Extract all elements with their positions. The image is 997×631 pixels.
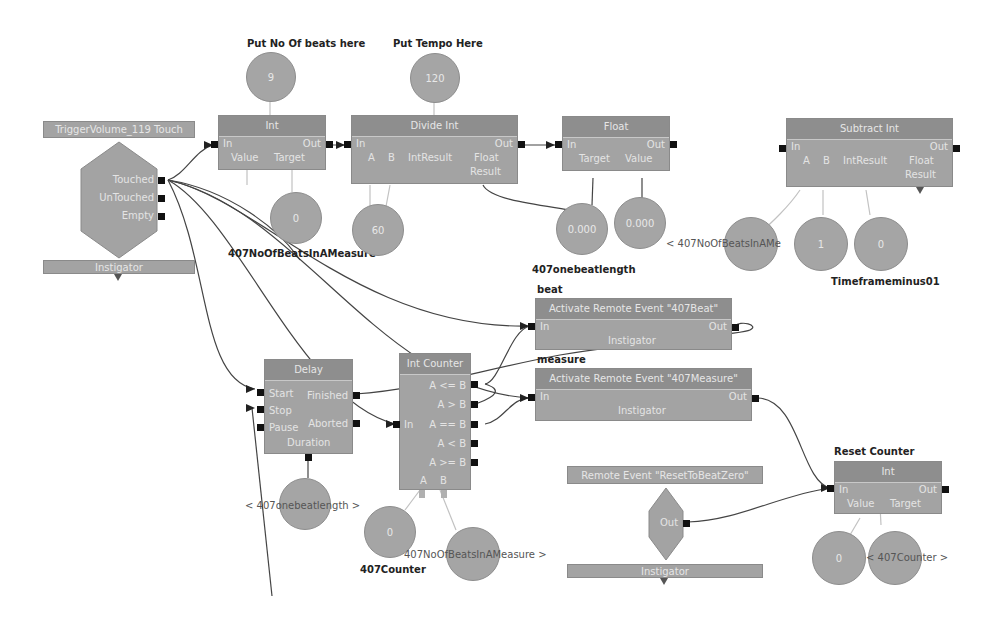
node-measure-out-port[interactable] bbox=[752, 395, 759, 402]
node-delay-aborted-port[interactable] bbox=[353, 420, 360, 427]
node-reset-int[interactable]: Int In Out Value Target bbox=[834, 461, 942, 514]
node-delay-stop-label: Stop bbox=[269, 405, 292, 416]
node-int-out-port[interactable] bbox=[326, 141, 333, 148]
node-reset-in-label: In bbox=[839, 484, 848, 495]
variable-reset-zero[interactable]: 0 bbox=[812, 531, 866, 585]
remote-event-instigator-arrow-icon bbox=[660, 578, 668, 585]
variable-one-constant[interactable]: 1 bbox=[794, 217, 848, 271]
trigger-untouched-port[interactable] bbox=[158, 195, 165, 202]
node-divide-int[interactable]: Divide Int In Out A B IntResult Float Re… bbox=[351, 115, 518, 184]
node-counter-eq-label: A == B bbox=[429, 419, 466, 430]
node-measure-in-label: In bbox=[540, 391, 549, 402]
node-counter-in-label: In bbox=[404, 419, 413, 430]
node-counter-gte-port[interactable] bbox=[471, 459, 478, 466]
variable-float-a[interactable]: 0.000 bbox=[556, 203, 608, 255]
node-int-in-label: In bbox=[223, 138, 232, 149]
remote-event-instigator[interactable]: Instigator bbox=[567, 564, 763, 578]
caption-reset-counter: Reset Counter bbox=[834, 446, 914, 457]
node-beat-out-port[interactable] bbox=[732, 324, 739, 331]
node-int-out-label: Out bbox=[303, 138, 321, 149]
node-reset-in-port[interactable] bbox=[827, 485, 834, 492]
node-counter-a-port[interactable] bbox=[419, 490, 425, 498]
node-counter-gt-label: A > B bbox=[438, 399, 466, 410]
node-delay[interactable]: Delay Start Stop Pause Finished Aborted … bbox=[264, 359, 353, 454]
node-delay-start-port[interactable] bbox=[257, 389, 264, 396]
node-float-in-label: In bbox=[567, 139, 576, 150]
node-measure-event-title: Activate Remote Event "407Measure" bbox=[536, 369, 751, 390]
node-counter-gt-port[interactable] bbox=[471, 401, 478, 408]
node-delay-start-label: Start bbox=[269, 388, 293, 399]
node-divide-result-label: Result bbox=[470, 166, 501, 177]
node-counter-lte-port[interactable] bbox=[471, 381, 478, 388]
node-int-in-port[interactable] bbox=[211, 141, 218, 148]
variable-sixty-constant[interactable]: 60 bbox=[352, 204, 404, 256]
caption-measure: measure bbox=[537, 354, 586, 365]
node-beat-out-label: Out bbox=[709, 321, 727, 332]
node-divide-in-label: In bbox=[356, 138, 365, 149]
node-reset-out-port[interactable] bbox=[942, 486, 949, 493]
variable-float-b[interactable]: 0.000 bbox=[614, 197, 666, 249]
caption-put-tempo: Put Tempo Here bbox=[393, 38, 483, 49]
node-activate-measure-event[interactable]: Activate Remote Event "407Measure" In Ou… bbox=[535, 368, 752, 421]
trigger-touched-port[interactable] bbox=[158, 177, 165, 184]
node-counter-lt-label: A < B bbox=[438, 438, 466, 449]
node-reset-value-label: Value bbox=[847, 498, 874, 509]
node-float-title: Float bbox=[563, 117, 669, 138]
node-int-title: Int bbox=[219, 116, 325, 137]
node-subtract-in-port[interactable] bbox=[779, 145, 786, 152]
node-int-target-label: Target bbox=[274, 152, 305, 163]
kismet-canvas[interactable]: Put No Of beats here Put Tempo Here 9 12… bbox=[0, 0, 997, 631]
node-delay-title: Delay bbox=[265, 360, 352, 381]
node-activate-beat-event[interactable]: Activate Remote Event "407Beat" In Out I… bbox=[535, 298, 732, 350]
caption-put-beats: Put No Of beats here bbox=[247, 38, 365, 49]
node-float-in-port[interactable] bbox=[555, 141, 562, 148]
node-divide-in-port[interactable] bbox=[344, 141, 351, 148]
node-int-value-label: Value bbox=[231, 152, 258, 163]
ref-onebeat-delay: < 407onebeatlength > bbox=[245, 500, 360, 511]
node-counter-b-port[interactable] bbox=[441, 490, 447, 498]
variable-timeframe[interactable]: 0 bbox=[854, 217, 908, 271]
node-subtract-int[interactable]: Subtract Int In Out A B IntResult Float … bbox=[786, 118, 953, 187]
node-divide-a-label: A bbox=[368, 152, 375, 163]
node-float[interactable]: Float In Out Target Value bbox=[562, 116, 670, 171]
remote-event-out-port[interactable] bbox=[683, 520, 690, 527]
node-measure-in-port[interactable] bbox=[528, 394, 535, 401]
node-subtract-result-arrow-icon bbox=[916, 187, 924, 194]
node-subtract-in-label: In bbox=[791, 141, 800, 152]
remote-event-title[interactable]: Remote Event "ResetToBeatZero" bbox=[567, 466, 763, 484]
variable-no-beats[interactable]: 0 bbox=[270, 192, 322, 244]
node-float-out-port[interactable] bbox=[670, 141, 677, 148]
node-int[interactable]: Int In Out Value Target bbox=[218, 115, 326, 170]
variable-tempo-constant[interactable]: 120 bbox=[410, 53, 460, 103]
caption-onebeat-var: 407onebeatlength bbox=[532, 264, 636, 275]
node-subtract-out-port[interactable] bbox=[953, 145, 960, 152]
node-delay-duration-port[interactable] bbox=[305, 454, 312, 461]
node-measure-instigator-label: Instigator bbox=[618, 405, 666, 416]
remote-event-out-label: Out bbox=[660, 517, 678, 528]
trigger-empty-port[interactable] bbox=[158, 213, 165, 220]
node-reset-target-label: Target bbox=[890, 498, 921, 509]
node-subtract-out-label: Out bbox=[930, 141, 948, 152]
node-delay-pause-port[interactable] bbox=[257, 424, 264, 431]
node-delay-stop-port[interactable] bbox=[257, 406, 264, 413]
node-float-out-label: Out bbox=[647, 139, 665, 150]
variable-beats-constant[interactable]: 9 bbox=[246, 52, 296, 102]
trigger-instigator[interactable]: Instigator bbox=[43, 260, 195, 274]
node-subtract-result-label: Result bbox=[905, 169, 936, 180]
node-subtract-float-label: Float bbox=[909, 155, 934, 166]
node-measure-out-label: Out bbox=[729, 391, 747, 402]
node-delay-finished-label: Finished bbox=[307, 390, 348, 401]
node-beat-instigator-label: Instigator bbox=[608, 335, 656, 346]
node-counter-eq-port[interactable] bbox=[471, 421, 478, 428]
node-delay-pause-label: Pause bbox=[269, 422, 298, 433]
node-delay-aborted-label: Aborted bbox=[308, 418, 348, 429]
node-counter-in-port[interactable] bbox=[393, 421, 400, 428]
node-beat-in-port[interactable] bbox=[528, 323, 535, 330]
node-delay-finished-port[interactable] bbox=[353, 392, 360, 399]
trigger-event-title[interactable]: TriggerVolume_119 Touch bbox=[43, 121, 195, 138]
node-int-counter[interactable]: Int Counter A <= B A > B In A == B A < B… bbox=[399, 353, 471, 490]
node-counter-lt-port[interactable] bbox=[471, 440, 478, 447]
node-divide-out-port[interactable] bbox=[518, 141, 525, 148]
node-divide-b-label: B bbox=[388, 152, 395, 163]
ref-no-beats-subtract: < 407NoOfBeatsInAMe bbox=[666, 238, 781, 249]
